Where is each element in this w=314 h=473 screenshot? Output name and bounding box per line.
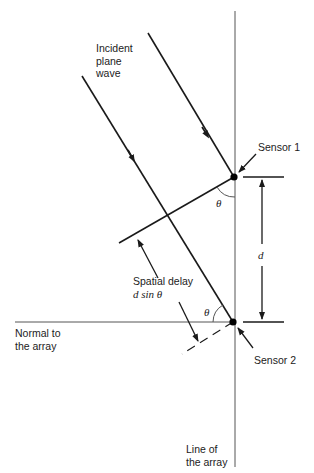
wavefront-dashed-line [182,322,233,354]
spacing-label: d [258,249,264,261]
incident-label-line1: Incident [96,42,133,54]
normal-label-line1: Normal to [15,327,61,339]
sensor-2-pointer-arrow-icon [238,328,253,348]
incident-ray-1 [148,33,234,177]
array-label-line2: the array [186,456,228,468]
delay-label-line1: Spatial delay [133,275,194,287]
theta-arc-top [217,187,235,197]
delay-up-arrow-icon [138,240,158,278]
theta-label-top: θ [216,197,222,209]
array-geometry-diagram: Incident plane wave Sensor 1 Sensor 2 θ … [0,0,314,473]
sensor-1-label: Sensor 1 [258,141,300,153]
incident-label-line3: wave [95,67,121,79]
wavefront-line [119,177,234,243]
theta-arc-bottom [213,305,223,322]
theta-label-bottom: θ [204,306,210,318]
sensor-1-pointer-arrow-icon [239,154,256,172]
sensor-1-dot [230,173,237,180]
array-label-line1: Line of [186,443,218,455]
sensor-2-label: Sensor 2 [254,354,296,366]
incident-label-line2: plane [96,55,122,67]
normal-label-line2: the array [15,340,57,352]
delay-label-line2: d sin θ [133,288,163,300]
ray-2-arrow-icon [128,150,133,159]
sensor-2-dot [229,318,236,325]
